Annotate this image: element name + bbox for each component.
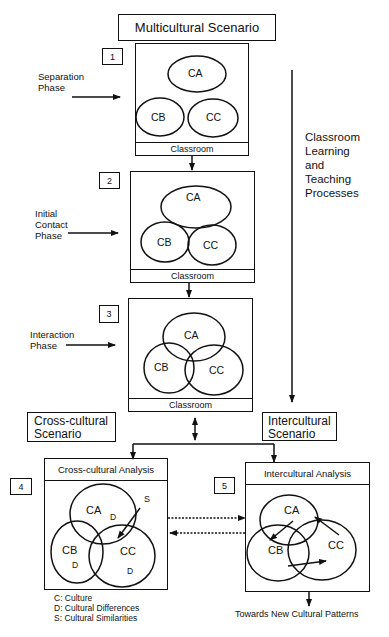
difference-marker-b: D [72,560,78,571]
stage-4-number: 4 [10,478,32,495]
cross-cultural-scenario-label: Cross-culturalScenario [27,412,116,442]
stage-2-box: Classroom [130,171,255,283]
stage-3-number: 3 [99,305,119,323]
cross-cultural-analysis-panel: Cross-cultural Analysis [44,458,168,590]
process-label: Classroom Learning and Teaching Processe… [305,130,360,200]
circle-cb: CB [62,545,77,556]
circle-cb: CB [154,362,169,373]
circle-cc: CC [203,240,218,251]
initial-contact-phase-label: InitialContactPhase [35,208,68,241]
stage-5-number: 5 [214,477,235,494]
classroom-label: Classroom [136,142,248,155]
classroom-label: Classroom [129,398,252,411]
panel-title: Cross-cultural Analysis [45,459,167,481]
legend-item: S: Cultural Similarities [54,613,139,623]
circle-ca: CA [284,505,299,516]
stage-1-box: Classroom [135,43,249,156]
circle-cb: CB [151,112,166,123]
stage-3-box: Classroom [128,298,253,412]
interaction-phase-label: InteractionPhase [30,329,74,351]
stage-1-number: 1 [102,48,123,65]
difference-marker-a: D [110,512,116,523]
legend-item: D: Cultural Differences [54,603,139,613]
stage-2-number: 2 [99,172,120,189]
circle-ca: CA [188,68,203,79]
circle-cb: CB [157,237,172,248]
circle-cc: CC [328,540,344,551]
legend-item: C: Culture [54,593,139,603]
intercultural-scenario-label: InterculturalScenario [262,412,337,441]
intercultural-analysis-panel: Intercultural Analysis [245,462,370,592]
panel-title: Intercultural Analysis [246,463,369,485]
circle-ca: CA [184,330,199,341]
circle-cc: CC [120,546,136,557]
difference-marker-c: D [127,566,133,577]
circle-cc: CC [209,365,224,376]
circle-cb: CB [268,545,283,556]
circle-cc: CC [206,112,221,123]
separation-phase-label: SeparationPhase [38,71,84,93]
circle-ca: CA [86,505,101,516]
similarity-marker: S [144,494,150,505]
classroom-label: Classroom [131,269,254,282]
outcome-label: Towards New Cultural Patterns [235,609,359,620]
legend: C: Culture D: Cultural Differences S: Cu… [54,593,139,623]
circle-ca: CA [186,192,201,203]
